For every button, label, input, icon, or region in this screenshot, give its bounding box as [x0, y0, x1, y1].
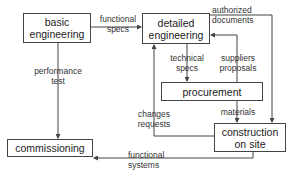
label-authorized-documents: authorized documents	[212, 5, 270, 25]
node-basic-engineering: basic engineering	[23, 13, 91, 43]
label-performance-test: performance test	[30, 66, 86, 86]
node-detailed-engineering: detailed engineering	[142, 13, 210, 44]
label-changes-requests: changes requests	[134, 109, 174, 129]
node-construction-on-site: construction on site	[214, 123, 286, 152]
label-suppliers-proposals: suppliers proposals	[214, 53, 262, 73]
label-functional-systems: functional systems	[128, 150, 174, 170]
engineering-workflow-diagram: basic engineering detailed engineering p…	[0, 0, 292, 173]
node-commissioning: commissioning	[7, 139, 93, 157]
label-functional-specs: functional specs	[96, 14, 140, 34]
label-technical-specs: technical specs	[164, 53, 210, 73]
node-procurement: procurement	[161, 82, 263, 101]
label-materials: materials	[219, 107, 257, 117]
